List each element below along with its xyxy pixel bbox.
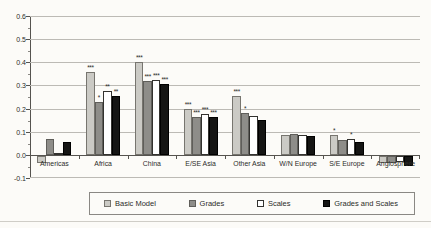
y-axis-tick [26, 155, 30, 156]
category-label: Anglosphere [370, 160, 422, 168]
bar-basic-model [86, 72, 95, 155]
x-axis-tick [419, 155, 420, 159]
x-axis-tick [323, 155, 324, 159]
y-axis-minor-tick [28, 167, 30, 168]
significance-stars: *** [203, 110, 224, 116]
bar-grades-and-scales [258, 120, 267, 155]
bar-grades [241, 113, 250, 155]
gridline [30, 177, 420, 178]
legend-label: Grades [200, 200, 225, 208]
gridline [30, 16, 420, 17]
significance-stars: ** [106, 89, 127, 95]
y-axis-tick-label: 0.4 [2, 59, 26, 66]
legend-swatch-icon [323, 200, 330, 207]
significance-stars: * [341, 132, 362, 138]
legend-swatch-icon [104, 200, 111, 207]
bar-basic-model [281, 135, 290, 155]
x-axis-tick [176, 155, 177, 159]
plot-area: Americas********Africa************China*… [30, 16, 420, 178]
legend-item-grades: Grades [189, 200, 225, 208]
x-axis-tick [274, 155, 275, 159]
category-label: S/E Europe [321, 160, 373, 168]
gridline [30, 39, 420, 40]
bar-basic-model [330, 135, 339, 155]
bar-scales [54, 153, 63, 155]
category-label: W/N Europe [272, 160, 324, 168]
y-axis-tick [26, 39, 30, 40]
significance-stars: *** [129, 55, 150, 61]
bar-grades-and-scales [112, 96, 121, 155]
bar-grades-and-scales [160, 84, 169, 155]
y-axis-minor-tick [28, 144, 30, 145]
y-axis-tick [26, 109, 30, 110]
y-axis-tick-label: 0.2 [2, 106, 26, 113]
category-label: E/SE Asia [175, 160, 227, 168]
significance-stars: *** [154, 77, 175, 83]
category-label: China [126, 160, 178, 168]
significance-stars: *** [226, 89, 247, 95]
x-axis-tick [371, 155, 372, 159]
y-axis-tick-label: -0.1 [2, 175, 26, 182]
bar-scales [103, 91, 112, 155]
bar-scales [249, 116, 258, 155]
legend-item-grades-and-scales: Grades and Scales [323, 200, 398, 208]
y-axis-tick-label: 0.0 [2, 152, 26, 159]
bar-chart-figure: Americas********Africa************China*… [0, 0, 431, 228]
y-axis-tick-label: 0.3 [2, 82, 26, 89]
legend-label: Grades and Scales [334, 200, 398, 208]
bar-grades [290, 134, 299, 155]
x-axis-tick [79, 155, 80, 159]
bar-grades-and-scales [307, 136, 316, 155]
category-label: Americas [28, 160, 80, 168]
y-axis-tick [26, 85, 30, 86]
y-axis-tick-label: 0.5 [2, 36, 26, 43]
chart-legend: Basic ModelGradesScalesGrades and Scales [89, 192, 415, 215]
y-axis-tick [26, 16, 30, 17]
category-label: Other Asia [223, 160, 275, 168]
legend-item-basic-model: Basic Model [104, 200, 156, 208]
bar-scales [347, 139, 356, 155]
y-axis-minor-tick [28, 51, 30, 52]
y-axis-minor-tick [28, 97, 30, 98]
y-axis-tick-label: 0.6 [2, 13, 26, 20]
legend-swatch-icon [257, 200, 264, 207]
y-axis-tick [26, 62, 30, 63]
y-axis-tick-label: 0.1 [2, 129, 26, 136]
y-axis-minor-tick [28, 28, 30, 29]
gridline [30, 62, 420, 63]
legend-swatch-icon [189, 200, 196, 207]
bottom-rule [0, 221, 431, 222]
bar-scales [298, 135, 307, 155]
x-axis-tick [128, 155, 129, 159]
bar-scales [152, 80, 161, 155]
y-axis-tick [26, 178, 30, 179]
y-axis-tick [26, 132, 30, 133]
bar-scales [201, 114, 210, 155]
bar-basic-model [232, 96, 241, 155]
bar-grades [192, 117, 201, 155]
bar-grades [46, 139, 55, 155]
y-axis-minor-tick [28, 121, 30, 122]
bar-grades-and-scales [355, 142, 364, 155]
significance-stars: * [235, 106, 256, 112]
legend-item-scales: Scales [257, 200, 291, 208]
bar-grades [95, 102, 104, 155]
legend-label: Basic Model [115, 200, 156, 208]
category-label: Africa [77, 160, 129, 168]
bar-grades [143, 81, 152, 155]
bar-grades-and-scales [63, 142, 72, 155]
x-axis-tick [225, 155, 226, 159]
significance-stars: *** [80, 65, 101, 71]
bar-grades [338, 140, 347, 155]
x-axis-tick [30, 155, 31, 159]
bar-grades-and-scales [209, 117, 218, 155]
y-axis-minor-tick [28, 74, 30, 75]
legend-label: Scales [268, 200, 291, 208]
